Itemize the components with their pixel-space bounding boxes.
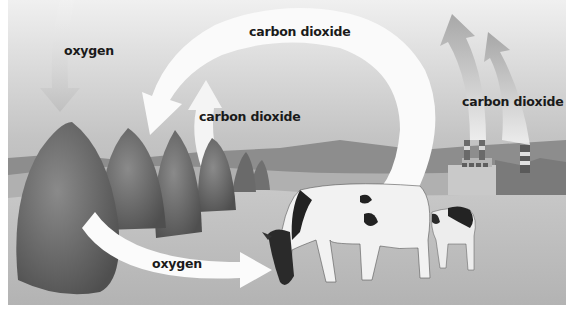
oxygen-label-bottom: oxygen bbox=[152, 256, 202, 271]
oxygen-label-top: oxygen bbox=[64, 43, 114, 58]
carbon-dioxide-label-top: carbon dioxide bbox=[249, 24, 351, 39]
cycle-diagram: oxygen carbon dioxide carbon dioxide car… bbox=[0, 0, 577, 314]
carbon-dioxide-label-middle: carbon dioxide bbox=[199, 109, 301, 124]
carbon-dioxide-label-factory: carbon dioxide bbox=[462, 94, 564, 109]
